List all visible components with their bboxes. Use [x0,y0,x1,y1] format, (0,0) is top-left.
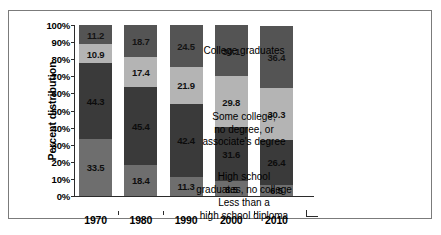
y-tick-label: 60% [52,88,70,99]
bar-value-label: 29.8 [215,96,248,107]
x-tick-label: 1970 [72,214,120,226]
y-tick-mark [71,93,75,94]
bar-segment: 33.5 [79,139,112,196]
y-tick-label: 40% [52,122,70,133]
chart-frame: Percent distribution 0%10%20%30%40%50%60… [8,10,432,219]
y-tick-mark [71,25,75,26]
bar-1980: 18.717.445.418.4 [124,25,157,196]
bar-segment: 44.3 [79,63,112,139]
legend-label-less-than-high-school: Less than ahigh school diploma [174,197,314,222]
y-tick-mark [71,111,75,112]
y-tick-mark [71,196,75,197]
bar-value-label: 18.7 [124,36,157,47]
y-tick-mark [71,145,75,146]
y-tick-label: 80% [52,54,70,65]
legend-label-college-graduates: College graduates [174,45,314,58]
bar-value-label: 10.9 [79,48,112,59]
bar-value-label: 44.3 [79,95,112,106]
legend-label-some-college: Some college,no degree, orassociate's de… [174,111,314,149]
x-tick-mark [118,211,119,215]
x-tick-mark [163,211,164,215]
bar-value-label: 45.4 [124,120,157,131]
bar-value-label: 33.5 [79,162,112,173]
bar-segment: 21.9 [170,67,203,104]
bar-segment: 17.4 [124,57,157,87]
bar-segment: 11.2 [79,25,112,44]
bar-segment: 18.7 [124,25,157,57]
bar-value-label: 26.4 [260,157,293,168]
x-tick-label: 1980 [117,214,165,226]
y-tick-label: 50% [52,105,70,116]
y-tick-mark [71,42,75,43]
y-tick-label: 70% [52,71,70,82]
y-tick-label: 20% [52,156,70,167]
y-tick-label: 100% [47,20,71,31]
bar-segment: 10.9 [79,44,112,63]
bar-segment: 45.4 [124,87,157,165]
bar-value-label: 21.9 [170,80,203,91]
y-tick-label: 10% [52,173,70,184]
bar-value-label: 18.4 [124,175,157,186]
bar-segment: 18.4 [124,165,157,196]
y-tick-label: 0% [57,191,70,202]
y-tick-mark [71,59,75,60]
bar-1970: 11.210.944.333.5 [79,25,112,196]
y-tick-mark [71,162,75,163]
bar-value-label: 11.2 [79,29,112,40]
bar-value-label: 31.6 [215,149,248,160]
y-tick-label: 90% [52,37,70,48]
y-tick-mark [71,179,75,180]
y-tick-mark [71,76,75,77]
y-tick-mark [71,128,75,129]
bar-value-label: 17.4 [124,67,157,78]
legend-label-high-school-graduates: High schoolgraduates, no college [174,171,314,196]
y-tick-label: 30% [52,139,70,150]
